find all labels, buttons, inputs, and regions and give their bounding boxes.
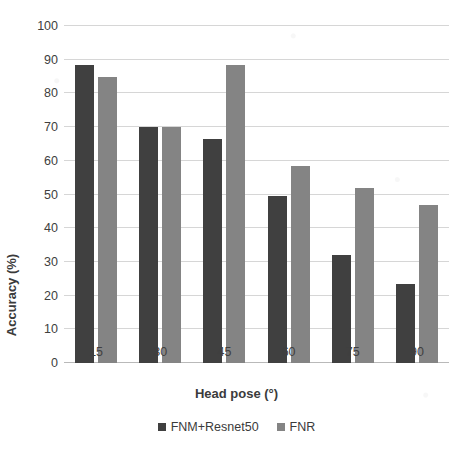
legend-label: FNM+Resnet50 <box>171 420 259 434</box>
y-axis-title: Accuracy (%) <box>4 215 19 375</box>
bar-group <box>128 26 192 363</box>
x-tick-label: 60 <box>282 345 296 359</box>
y-tick-label: 0 <box>20 356 58 370</box>
plot-area <box>64 26 449 363</box>
y-tick-label: 30 <box>20 255 58 269</box>
y-tick-label: 40 <box>20 221 58 235</box>
bar-chart: Accuracy (%) 0102030405060708090100 1530… <box>0 0 473 449</box>
y-tick-label: 20 <box>20 289 58 303</box>
y-tick-label: 50 <box>20 188 58 202</box>
bar[interactable] <box>355 188 374 363</box>
x-axis-title: Head pose (°) <box>0 386 473 401</box>
bar-group <box>192 26 256 363</box>
y-tick-label: 80 <box>20 86 58 100</box>
legend-swatch-icon <box>158 423 166 431</box>
x-tick-label: 15 <box>89 345 103 359</box>
x-tick-label: 75 <box>346 345 360 359</box>
x-tick-label: 45 <box>217 345 231 359</box>
bar-group <box>257 26 321 363</box>
bar-groups <box>64 26 449 363</box>
bar[interactable] <box>203 139 222 363</box>
y-tick-label: 70 <box>20 120 58 134</box>
y-tick-label: 10 <box>20 322 58 336</box>
bar-group <box>64 26 128 363</box>
x-tick-label: 30 <box>153 345 167 359</box>
legend-item[interactable]: FNR <box>277 420 316 434</box>
bar[interactable] <box>268 196 287 363</box>
x-tick-label: 90 <box>410 345 424 359</box>
bar-group <box>385 26 449 363</box>
legend-swatch-icon <box>277 423 285 431</box>
bar-group <box>321 26 385 363</box>
legend-label: FNR <box>290 420 316 434</box>
y-tick-label: 100 <box>20 19 58 33</box>
legend-item[interactable]: FNM+Resnet50 <box>158 420 259 434</box>
bar[interactable] <box>75 65 94 363</box>
bar[interactable] <box>162 127 181 363</box>
chart-legend: FNM+Resnet50FNR <box>0 420 473 434</box>
y-tick-label: 60 <box>20 154 58 168</box>
bar[interactable] <box>419 205 438 363</box>
bar[interactable] <box>291 166 310 363</box>
bar[interactable] <box>98 77 117 363</box>
bar[interactable] <box>139 127 158 363</box>
bar[interactable] <box>226 65 245 363</box>
y-tick-label: 90 <box>20 53 58 67</box>
